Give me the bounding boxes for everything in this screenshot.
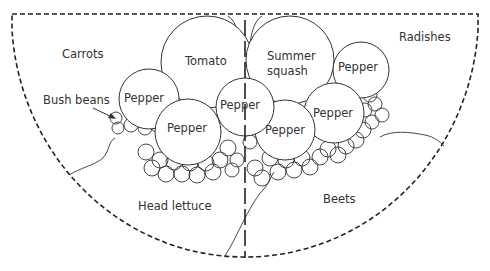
label-summer-squash-1: Summer (267, 49, 316, 63)
label-pepper-left: Pepper (124, 91, 164, 105)
label-pepper-top-right: Pepper (338, 60, 378, 74)
label-pepper-right: Pepper (313, 106, 353, 120)
boundary-left (69, 138, 115, 175)
label-radishes: Radishes (399, 30, 451, 44)
label-carrots: Carrots (62, 47, 104, 61)
label-tomato: Tomato (184, 54, 227, 68)
boundary-right (380, 132, 444, 146)
label-pepper-center-left: Pepper (167, 121, 207, 135)
label-summer-squash-2: squash (267, 64, 308, 78)
label-pepper-center: Pepper (220, 98, 260, 112)
label-bush-beans: Bush beans (43, 93, 110, 107)
label-beets: Beets (323, 192, 356, 206)
garden-plan-diagram: Carrots Radishes Head lettuce Beets Toma… (0, 0, 490, 271)
label-pepper-center-right: Pepper (265, 123, 305, 137)
label-head-lettuce: Head lettuce (138, 199, 212, 213)
